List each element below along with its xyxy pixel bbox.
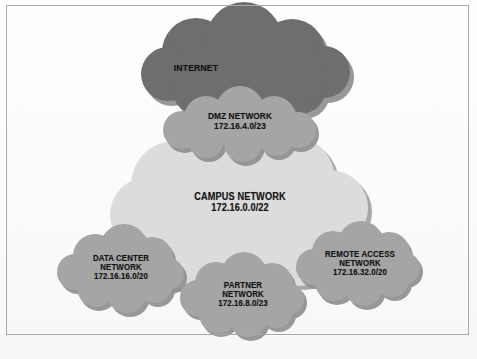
figure-frame [6,5,469,335]
